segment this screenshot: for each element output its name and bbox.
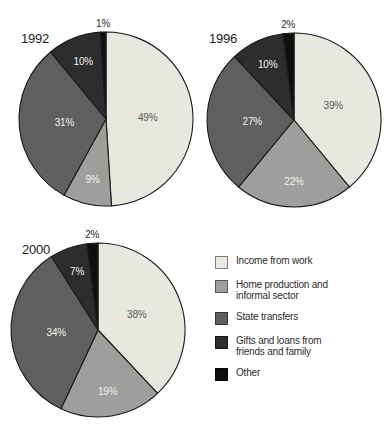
- pie-1996-label-income-from-work: 39%: [324, 100, 344, 111]
- pie-chart-1992: 49%9%31%10%1%: [17, 30, 195, 208]
- pie-1992-label-other: 1%: [96, 18, 110, 29]
- pie-1996-label-home-production-and-informal-sector: 22%: [284, 176, 304, 187]
- legend-swatch-home-production: [215, 280, 228, 293]
- pie-2000-label-other: 2%: [85, 229, 99, 240]
- pie-1992-label-gifts-and-loans-from-friends-and-family: 10%: [74, 56, 94, 67]
- legend-label-state-transfers: State transfers: [236, 312, 298, 323]
- pie-1996-label-other: 2%: [281, 19, 295, 30]
- pie-2000-label-state-transfers: 34%: [47, 327, 67, 338]
- pie-chart-2000: 38%19%34%7%2%: [9, 241, 187, 419]
- pie-2000-label-income-from-work: 38%: [127, 309, 147, 320]
- legend-item-income-from-work: Income from work: [215, 256, 375, 269]
- income-sources-pie-figure: 1992 1996 2000 49%9%31%10%1% 39%22%27%10…: [0, 0, 392, 435]
- pie-1996-label-gifts-and-loans-from-friends-and-family: 10%: [258, 59, 278, 70]
- legend-swatch-other: [215, 368, 228, 381]
- legend-item-state-transfers: State transfers: [215, 312, 375, 325]
- legend-item-gifts-and-loans: Gifts and loans from friends and family: [215, 336, 375, 357]
- pie-1992-label-home-production-and-informal-sector: 9%: [85, 174, 99, 185]
- legend-label-gifts-and-loans: Gifts and loans from friends and family: [236, 336, 340, 357]
- legend-swatch-income-from-work: [215, 256, 228, 269]
- legend-label-home-production: Home production and informal sector: [236, 280, 340, 301]
- legend-item-other: Other: [215, 368, 375, 381]
- pie-1992-label-state-transfers: 31%: [55, 117, 75, 128]
- legend-item-home-production: Home production and informal sector: [215, 280, 375, 301]
- pie-1996-label-state-transfers: 27%: [243, 116, 263, 127]
- pie-2000-label-home-production-and-informal-sector: 19%: [98, 386, 118, 397]
- chart-legend: Income from work Home production and inf…: [215, 256, 375, 381]
- pie-chart-1996: 39%22%27%10%2%: [205, 31, 383, 209]
- pie-1992-label-income-from-work: 49%: [138, 112, 158, 123]
- legend-label-other: Other: [236, 368, 260, 379]
- legend-label-income-from-work: Income from work: [236, 256, 312, 267]
- legend-swatch-state-transfers: [215, 312, 228, 325]
- pie-2000-label-gifts-and-loans-from-friends-and-family: 7%: [70, 266, 84, 277]
- legend-swatch-gifts-and-loans: [215, 336, 228, 349]
